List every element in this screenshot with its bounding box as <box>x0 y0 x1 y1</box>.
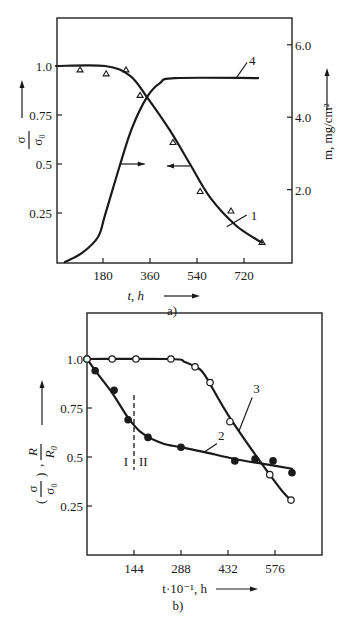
y-axis-arrow-icon-b <box>40 380 45 425</box>
y-tick-label: 0.25 <box>29 206 52 221</box>
triangle-marker <box>197 188 203 193</box>
figure: 180360540720 0.250.50.751.0 2.04.06.0 14… <box>0 0 347 623</box>
triangle-marker <box>123 67 129 72</box>
curve-1 <box>56 65 262 242</box>
panel-label-b: b) <box>173 598 184 613</box>
x-axis-arrow-icon-a <box>164 294 200 299</box>
filled-circle-marker <box>178 444 184 450</box>
y-tick-label: 0.75 <box>60 401 83 416</box>
x-tick-label: 540 <box>187 268 207 283</box>
filled-circle-marker <box>270 458 276 464</box>
series-group-a: 14 <box>56 53 265 262</box>
chart-panel-a: 180360540720 0.250.50.751.0 2.04.06.0 14… <box>13 18 335 318</box>
sigma-numerator: σ <box>13 136 28 143</box>
triangle-marker <box>77 67 83 72</box>
r0-denominator: R₀ <box>42 446 57 459</box>
y-tick-label: 0.75 <box>29 108 52 123</box>
y-tick-label: 0.5 <box>67 450 83 465</box>
open-circle-marker <box>84 356 90 362</box>
sigma-numerator-b: σ <box>25 485 40 492</box>
filled-circle-marker <box>125 417 131 423</box>
x-axis-label-b: t·10⁻¹, h <box>162 581 207 596</box>
y-tick-label: 1.0 <box>67 352 83 367</box>
y-right-tick-label: 6.0 <box>295 38 311 53</box>
triangle-marker <box>137 92 143 97</box>
x-axis-arrow-icon-b <box>216 587 258 592</box>
x-tick-label: 360 <box>140 268 160 283</box>
y-tick-label: 1.0 <box>36 59 52 74</box>
x-axis-ticks-a: 180360540720 <box>93 258 254 283</box>
curve-label-4: 4 <box>249 53 256 68</box>
x-tick-label: 432 <box>218 561 238 576</box>
filled-circle-marker <box>289 469 295 475</box>
curve-label-3: 3 <box>253 381 260 396</box>
arrow-right-icon <box>138 162 145 167</box>
triangle-marker <box>103 71 109 76</box>
curve-4 <box>65 78 258 262</box>
x-tick-label: 144 <box>124 561 144 576</box>
filled-circle-marker <box>232 458 238 464</box>
y-tick-label: 0.5 <box>36 157 52 172</box>
filled-circle-marker <box>252 456 258 462</box>
open-circle-marker <box>227 419 233 425</box>
open-circle-marker <box>168 356 174 362</box>
filled-circle-marker <box>111 387 117 393</box>
y-right-tick-label: 4.0 <box>295 110 311 125</box>
y-axis-right-label-a: m, mg/cm² <box>320 103 335 160</box>
comma: , <box>30 464 45 467</box>
y-axis-label-b: ( σ σ₀ ) , R R₀ <box>25 444 57 504</box>
x-tick-label: 180 <box>93 268 113 283</box>
paren-open: ( <box>33 500 48 504</box>
paren-close: ) <box>33 473 48 477</box>
arrow-left-icon <box>167 163 174 168</box>
region-label-I: I <box>124 454 128 469</box>
x-tick-label: 288 <box>171 561 191 576</box>
triangle-marker <box>228 208 234 213</box>
curve-2 <box>87 359 292 469</box>
sigma0-denominator-b: σ₀ <box>42 483 57 495</box>
y-right-tick-label: 2.0 <box>295 183 311 198</box>
y-axis-left-arrow-icon <box>20 80 25 118</box>
curve-label-1: 1 <box>251 208 258 223</box>
x-tick-label: 576 <box>265 561 285 576</box>
open-circle-marker <box>192 364 198 370</box>
filled-circle-marker <box>92 368 98 374</box>
y-axis-right-ticks-a: 2.04.06.0 <box>287 38 311 198</box>
open-circle-marker <box>109 356 115 362</box>
open-circle-marker <box>133 356 139 362</box>
series-group-b: 23 <box>84 356 295 504</box>
region-divider-b: III <box>124 395 148 470</box>
sigma0-denominator: σ₀ <box>30 134 45 146</box>
filled-circle-marker <box>145 434 151 440</box>
curve-3 <box>87 359 291 500</box>
x-axis-ticks-b: 144288432576 <box>124 550 285 576</box>
curve-label-2: 2 <box>218 428 225 443</box>
y-tick-label: 0.25 <box>60 499 83 514</box>
r-numerator: R <box>25 448 40 457</box>
panel-label-a: a) <box>167 303 177 318</box>
region-label-II: II <box>139 454 148 469</box>
open-circle-marker <box>267 471 273 477</box>
plot-frame-b <box>87 313 322 555</box>
plot-frame-a <box>57 18 292 263</box>
x-axis-label-a: t, h <box>127 288 144 303</box>
open-circle-marker <box>207 379 213 385</box>
y-axis-left-label-a: σ σ₀ <box>13 131 45 149</box>
open-circle-marker <box>288 497 294 503</box>
x-tick-label: 720 <box>234 268 254 283</box>
chart-panel-b: 144288432576 0.250.50.751.0 III 23 ( σ σ… <box>25 313 322 613</box>
